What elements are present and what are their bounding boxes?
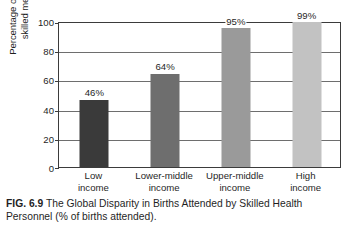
bars-layer: 46% 64% 95% 99% (59, 23, 340, 167)
x-label-high-income: High income (270, 170, 341, 194)
figure-bar-chart: Percentage of births attended by skilled… (0, 0, 355, 228)
y-tick-label-60: 60 (30, 75, 54, 86)
bar-value-low-income: 46% (84, 87, 105, 98)
bar-upper-middle-income[interactable] (221, 28, 250, 167)
x-label-high-income-line-1: High (270, 170, 341, 182)
x-label-low-income-line-1: Low (58, 170, 129, 182)
x-axis-category-labels: Low income Lower-middle income Upper-mid… (58, 170, 341, 196)
x-label-low-income-line-2: income (58, 182, 129, 194)
x-label-upper-middle-income-line-1: Upper-middle (200, 170, 271, 182)
bar-high-income[interactable] (292, 22, 321, 167)
y-tick-label-20: 20 (30, 134, 54, 145)
x-label-upper-middle-income: Upper-middle income (200, 170, 271, 194)
y-tick-label-80: 80 (30, 46, 54, 57)
x-label-lower-middle-income: Lower-middle income (129, 170, 200, 194)
bar-slot-upper-middle-income: 95% (201, 23, 272, 167)
plot-area: 46% 64% 95% 99% (58, 22, 341, 168)
y-tick-label-40: 40 (30, 105, 54, 116)
bar-value-lower-middle-income: 64% (155, 61, 176, 72)
bar-slot-high-income: 99% (271, 23, 342, 167)
y-axis-tick-labels: 100 80 60 40 20 0 (30, 17, 54, 173)
bar-slot-low-income: 46% (59, 23, 130, 167)
y-tick-label-100: 100 (30, 17, 54, 28)
figure-caption: FIG. 6.9 The Global Disparity in Births … (6, 197, 351, 223)
x-label-low-income: Low income (58, 170, 129, 194)
bar-low-income[interactable] (80, 100, 109, 167)
x-label-lower-middle-income-line-1: Lower-middle (129, 170, 200, 182)
figure-caption-tag: FIG. 6.9 (6, 198, 43, 209)
y-tick-label-0: 0 (30, 163, 54, 174)
x-label-upper-middle-income-line-2: income (200, 182, 271, 194)
bar-value-upper-middle-income: 95% (225, 16, 246, 27)
x-label-high-income-line-2: income (270, 182, 341, 194)
bar-lower-middle-income[interactable] (151, 74, 180, 167)
figure-caption-text: The Global Disparity in Births Attended … (6, 198, 302, 222)
tickmark-0 (55, 168, 59, 169)
bar-value-high-income: 99% (296, 10, 317, 21)
bar-slot-lower-middle-income: 64% (130, 23, 201, 167)
y-axis-title-line-1: Percentage of births attended by (7, 0, 20, 55)
x-label-lower-middle-income-line-2: income (129, 182, 200, 194)
